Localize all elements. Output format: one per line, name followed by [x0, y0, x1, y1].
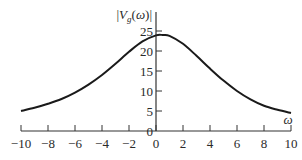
x-axis: −10−8−6−4−20246810 [11, 125, 298, 151]
x-tick-label: −4 [95, 136, 109, 151]
x-tick-label: 10 [285, 136, 298, 151]
x-tick-label: −6 [68, 136, 82, 151]
x-tick-label: 2 [180, 136, 187, 151]
y-axis: 0510152025 [140, 12, 162, 139]
y-tick-label: 5 [147, 104, 154, 119]
y-tick-label: 15 [140, 64, 153, 79]
x-tick-label: −10 [11, 136, 31, 151]
y-tick-label: 0 [147, 124, 154, 139]
x-tick-label: −2 [122, 136, 136, 151]
y-tick-label: 20 [140, 44, 153, 59]
x-tick-label: 6 [234, 136, 241, 151]
y-tick-label: 10 [140, 84, 153, 99]
y-axis-title: |Vg(ω)| [116, 7, 152, 24]
x-axis-title: ω [283, 112, 292, 127]
x-tick-label: 4 [207, 136, 214, 151]
x-tick-label: 8 [261, 136, 268, 151]
x-tick-label: −8 [41, 136, 55, 151]
x-tick-label: 0 [153, 136, 160, 151]
chart: −10−8−6−4−20246810 0510152025 |Vg(ω)| ω [0, 0, 302, 160]
